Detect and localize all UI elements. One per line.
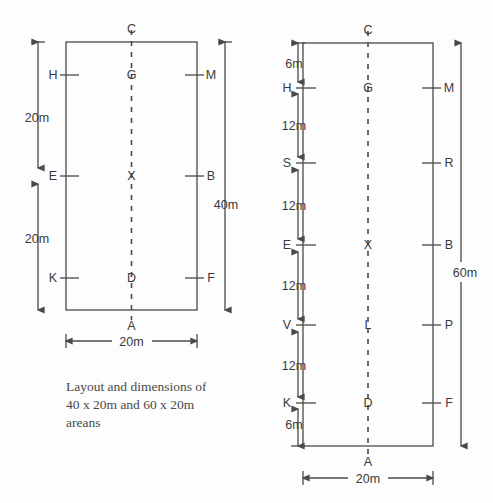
right-dim-seg5: 12m: [282, 359, 306, 373]
left-label-B: B: [207, 169, 215, 183]
right-dim-seg6: 6m: [285, 418, 302, 432]
right-label-B: B: [445, 238, 453, 252]
left-label-C: C: [127, 22, 136, 36]
left-label-D: D: [127, 271, 136, 285]
right-dim-height: 60m: [453, 266, 477, 280]
left-dim-width: 20m: [119, 335, 143, 349]
left-label-X: X: [127, 169, 136, 183]
right-label-D: D: [363, 396, 372, 410]
left-dim-height: 40m: [214, 198, 238, 212]
left-dim-seg1: 20m: [25, 111, 49, 125]
caption-line-3: areans: [66, 414, 256, 432]
right-dim-width: 20m: [356, 472, 380, 486]
right-label-V: V: [283, 318, 292, 332]
left-label-K: K: [49, 271, 58, 285]
right-label-S: S: [283, 156, 291, 170]
right-dim-seg2: 12m: [282, 119, 306, 133]
left-arena-40x20: C A H G M E X B K D F 20m 20m 40m: [25, 22, 238, 350]
figure-caption: Layout and dimensions of 40 x 20m and 60…: [66, 378, 256, 432]
figure-canvas: C A H G M E X B K D F 20m 20m 40m: [0, 0, 493, 503]
right-label-P: P: [445, 318, 453, 332]
right-dim-seg3: 12m: [282, 199, 306, 213]
right-label-E: E: [283, 238, 291, 252]
right-label-A: A: [364, 455, 373, 469]
right-label-K: K: [283, 396, 292, 410]
right-label-M: M: [444, 81, 454, 95]
right-label-R: R: [444, 156, 453, 170]
caption-line-1: Layout and dimensions of: [66, 378, 256, 396]
right-label-G: G: [363, 81, 373, 95]
right-label-X: X: [364, 238, 373, 252]
right-label-F: F: [445, 396, 453, 410]
right-arena-60x20: C A H G M S R E X B V L P K D F 6m: [282, 23, 486, 487]
right-label-C: C: [363, 23, 372, 37]
right-label-L: L: [365, 318, 372, 332]
right-dim-seg4: 12m: [282, 279, 306, 293]
caption-line-2: 40 x 20m and 60 x 20m: [66, 396, 256, 414]
left-dim-seg2: 20m: [25, 232, 49, 246]
left-label-E: E: [49, 169, 57, 183]
left-label-M: M: [206, 68, 216, 82]
right-dim-seg1: 6m: [285, 57, 302, 71]
left-label-F: F: [207, 271, 215, 285]
left-label-H: H: [48, 68, 57, 82]
left-label-A: A: [127, 319, 136, 333]
right-label-H: H: [282, 81, 291, 95]
left-label-G: G: [127, 68, 137, 82]
